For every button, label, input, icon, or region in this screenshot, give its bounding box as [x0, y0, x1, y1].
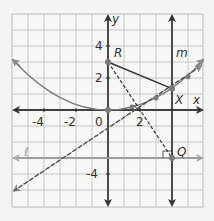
y-tick-2: 2 [95, 71, 103, 85]
coordinate-plane: y x -4 -2 2 0 4 2 -4 R X Q m ℓ [0, 0, 214, 221]
parabola-point-2 [154, 96, 159, 101]
parabola-point-1 [130, 105, 135, 110]
parabola-point-3 [186, 74, 191, 79]
point-X [169, 86, 175, 92]
point-R [105, 59, 111, 65]
point-vertex [105, 107, 111, 113]
y-tick-neg4: -4 [86, 167, 98, 181]
point-Q [169, 155, 175, 161]
y-tick-4: 4 [95, 39, 103, 53]
label-m: m [176, 46, 188, 60]
x-tick-neg4: -4 [32, 115, 44, 129]
label-Q: Q [177, 145, 186, 159]
origin-label: 0 [95, 115, 103, 129]
x-axis-label: x [192, 93, 201, 107]
label-l: ℓ [23, 145, 29, 159]
label-R: R [114, 46, 122, 60]
x-tick-2: 2 [136, 115, 144, 129]
label-X: X [174, 93, 184, 107]
y-axis-label: y [111, 12, 120, 26]
x-tick-neg2: -2 [64, 115, 76, 129]
